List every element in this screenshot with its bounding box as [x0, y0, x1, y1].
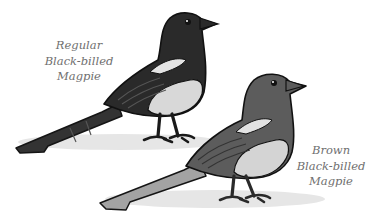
brown-magpie-eye [271, 80, 277, 86]
regular-magpie-legs [158, 114, 178, 136]
caption-line: Black-billed [34, 54, 124, 70]
regular-magpie-caption: Regular Black-billed Magpie [34, 38, 124, 85]
caption-line: Brown [296, 143, 366, 159]
brown-magpie-caption: Brown Black-billed Magpie [296, 143, 366, 190]
caption-line: Magpie [34, 69, 124, 85]
regular-magpie-eye [185, 19, 191, 25]
caption-line: Magpie [296, 174, 366, 190]
caption-line: Black-billed [296, 159, 366, 175]
caption-line: Regular [34, 38, 124, 54]
